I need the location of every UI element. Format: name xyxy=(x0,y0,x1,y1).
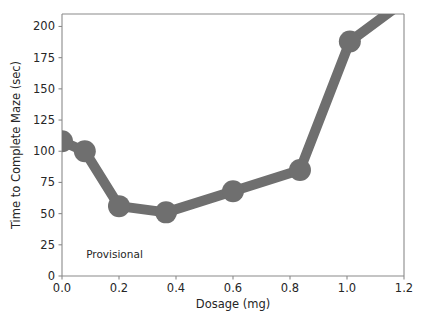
plot-area-background xyxy=(62,14,404,276)
data-point-marker xyxy=(74,140,96,162)
x-tick-label: 0.2 xyxy=(110,281,128,295)
y-tick-label: 75 xyxy=(40,175,55,189)
y-tick-label: 150 xyxy=(33,82,55,96)
x-axis-title: Dosage (mg) xyxy=(196,297,270,311)
y-tick-label: 200 xyxy=(33,19,55,33)
x-tick-label: 0.6 xyxy=(224,281,242,295)
line-chart: 0.00.20.40.60.81.01.2 025507510012515017… xyxy=(0,0,431,321)
chart-figure: 0.00.20.40.60.81.01.2 025507510012515017… xyxy=(0,0,431,321)
data-point-marker xyxy=(339,30,361,52)
x-tick-label: 1.0 xyxy=(338,281,356,295)
x-tick-label: 1.2 xyxy=(395,281,413,295)
y-axis-title: Time to Complete Maze (sec) xyxy=(9,61,23,230)
data-point-marker xyxy=(155,201,177,223)
plot-annotation: Provisional xyxy=(86,248,143,260)
x-tick-label: 0.4 xyxy=(167,281,185,295)
y-tick-label: 100 xyxy=(33,144,55,158)
y-tick-label: 0 xyxy=(48,269,55,283)
x-tick-label: 0.8 xyxy=(281,281,299,295)
y-tick-label: 50 xyxy=(40,207,55,221)
y-tick-label: 175 xyxy=(33,51,55,65)
data-point-marker xyxy=(289,159,311,181)
y-tick-label: 125 xyxy=(33,113,55,127)
data-point-marker xyxy=(108,195,130,217)
y-tick-label: 25 xyxy=(40,238,55,252)
data-point-marker xyxy=(222,180,244,202)
x-tick-label: 0.0 xyxy=(53,281,71,295)
